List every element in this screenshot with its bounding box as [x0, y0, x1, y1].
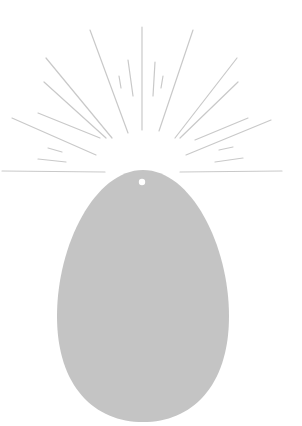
egg-illustration	[0, 0, 302, 426]
light-ray	[46, 58, 112, 138]
light-ray	[180, 171, 282, 172]
light-ray	[119, 76, 121, 88]
egg-with-rays-graphic	[0, 0, 302, 426]
light-ray	[48, 148, 62, 152]
light-ray	[153, 62, 155, 96]
light-ray	[44, 82, 106, 138]
light-ray	[219, 147, 233, 150]
egg-hanging-hole	[139, 179, 145, 185]
light-ray	[38, 159, 66, 162]
light-ray	[2, 171, 105, 172]
light-ray	[186, 120, 271, 155]
light-rays	[2, 27, 282, 172]
light-ray	[195, 118, 248, 140]
light-ray	[180, 82, 238, 138]
light-ray	[215, 158, 243, 162]
egg-shape	[57, 170, 229, 422]
light-ray	[128, 60, 133, 96]
light-ray	[159, 30, 193, 131]
light-ray	[161, 76, 163, 88]
light-ray	[38, 113, 100, 138]
